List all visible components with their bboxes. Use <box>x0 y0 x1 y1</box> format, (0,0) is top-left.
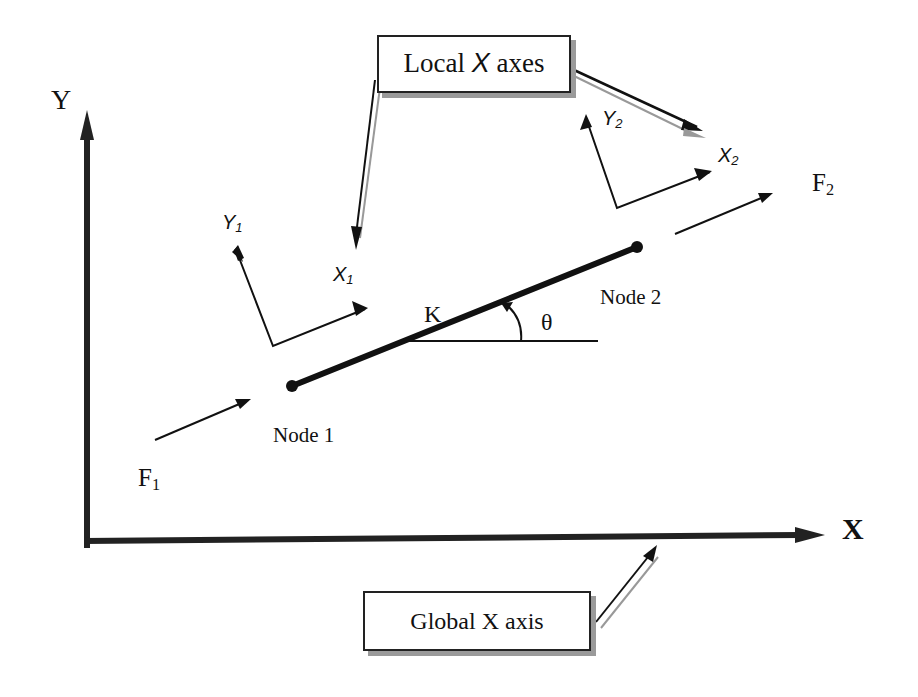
force-f2-label: F2 <box>812 170 834 198</box>
global-y-axis <box>80 110 94 548</box>
local-axes-node-1 <box>232 245 368 346</box>
local-axes-callout-x: X <box>472 48 490 78</box>
local-y1-label: Y1 <box>222 212 243 234</box>
local-axes-callout: Local X axes <box>377 35 571 93</box>
global-y-label: Y <box>51 86 71 114</box>
local-axes-callout-prefix: Local <box>404 48 472 78</box>
local-axes-pointer-left <box>351 80 381 250</box>
force-f1-label: F1 <box>138 465 160 493</box>
global-x-label: X <box>842 514 864 544</box>
global-x-axis <box>84 527 825 543</box>
node-1-label: Node 1 <box>273 425 334 446</box>
node-1-point <box>286 380 298 392</box>
force-arrow-f1 <box>155 399 251 440</box>
local-x1-label: X1 <box>333 264 354 286</box>
local-x2-label: X2 <box>718 145 739 167</box>
local-y2-label: Y2 <box>602 108 623 130</box>
truss-element-diagram: Y X Local X axes Global X axis Y1 X1 Y2 … <box>0 0 918 697</box>
node-2-point <box>631 241 643 253</box>
global-axis-pointer <box>596 545 658 628</box>
node-2-label: Node 2 <box>600 287 661 308</box>
global-axis-callout: Global X axis <box>363 591 591 651</box>
stiffness-label: K <box>424 302 441 326</box>
angle-theta-label: θ <box>541 310 553 334</box>
local-axes-callout-suffix: axes <box>490 48 545 78</box>
force-arrow-f2 <box>675 193 773 234</box>
local-axes-pointer-right <box>574 70 706 138</box>
